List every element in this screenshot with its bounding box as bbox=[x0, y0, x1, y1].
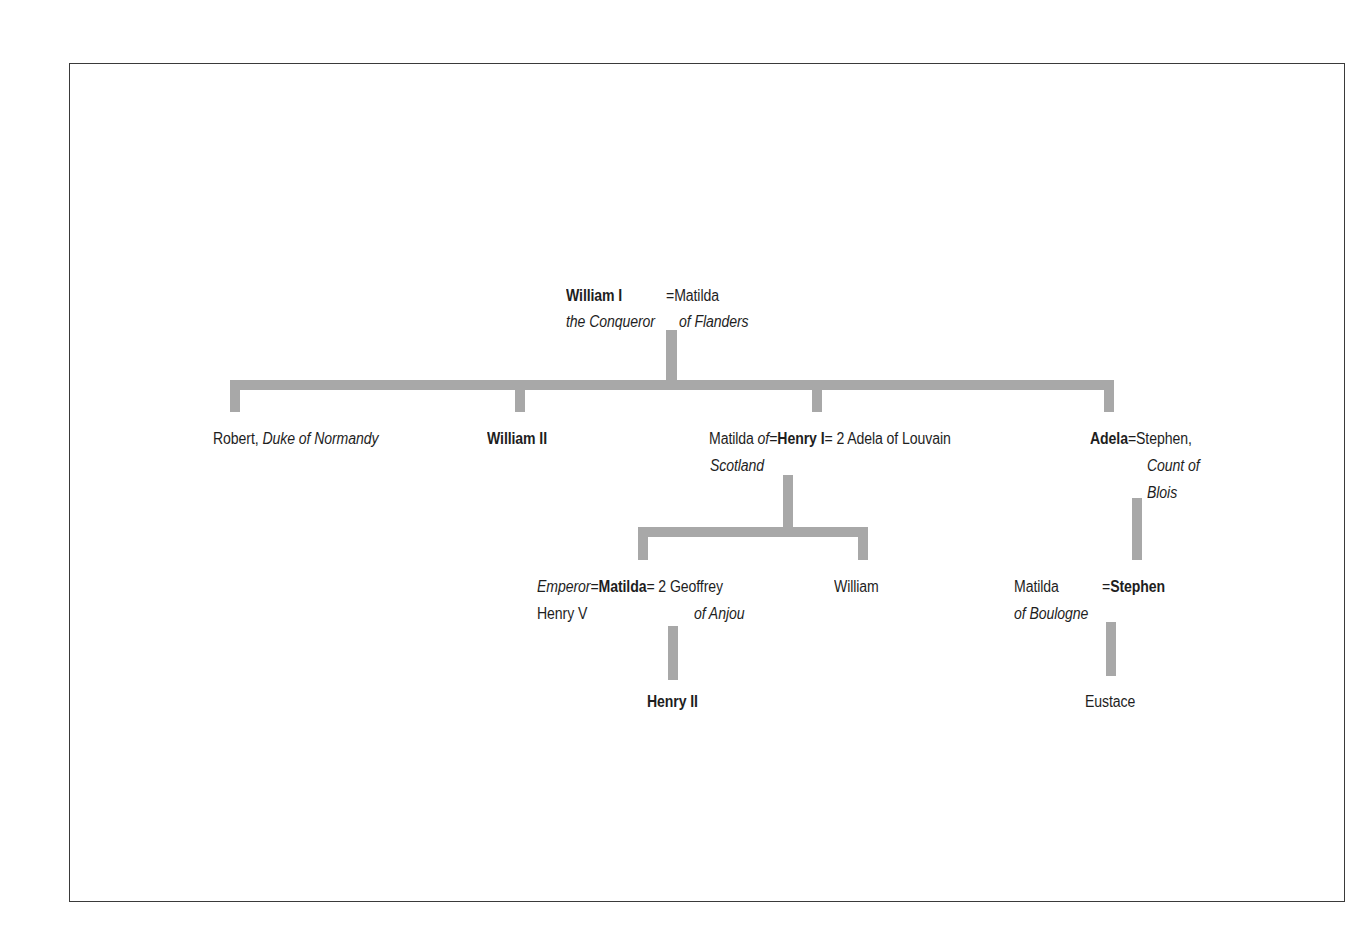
matilda-flanders-epithet: of Flanders bbox=[679, 308, 748, 335]
stephen-node: =Stephen bbox=[1102, 573, 1165, 600]
william-node: William bbox=[834, 573, 879, 600]
geoffrey-name: Geoffrey bbox=[670, 578, 723, 595]
matilda-flanders-name: Matilda bbox=[674, 287, 719, 304]
stephen-blois-title-1: Count of bbox=[1147, 452, 1200, 479]
matilda-drop-line bbox=[638, 527, 648, 560]
matilda-boulogne-name: Matilda bbox=[1014, 573, 1059, 600]
adela-descent-line bbox=[1132, 498, 1142, 560]
marriage-sign: = bbox=[666, 287, 674, 304]
william-i-node: William I bbox=[566, 282, 622, 309]
william-ii-drop-line bbox=[515, 380, 525, 412]
second-marriage-sign: = 2 bbox=[824, 430, 844, 447]
william-i-epithet: the Conqueror bbox=[566, 308, 655, 335]
henry-i-name: Henry I bbox=[777, 430, 824, 447]
adela-name: Adela bbox=[1090, 430, 1128, 447]
adela-drop-line bbox=[1104, 380, 1114, 412]
matilda-descent-line bbox=[668, 626, 678, 680]
adela-louvain-name: Adela of Louvain bbox=[847, 430, 950, 447]
william-i-name: William I bbox=[566, 287, 622, 304]
stephen-blois-name: Stephen, bbox=[1136, 430, 1192, 447]
marriage-sign: = bbox=[769, 430, 777, 447]
marriage-sign: = bbox=[1102, 578, 1110, 595]
emperor-label: Emperor bbox=[537, 578, 590, 595]
henry-i-node: Matilda of=Henry I= 2 Adela of Louvain bbox=[709, 425, 951, 452]
second-marriage-sign: = 2 bbox=[646, 578, 666, 595]
empress-matilda-node: Emperor=Matilda= 2 Geoffrey bbox=[537, 573, 723, 600]
matilda-scotland-of: of bbox=[758, 430, 770, 447]
robert-name: Robert, bbox=[213, 430, 259, 447]
matilda-name: Matilda bbox=[599, 578, 647, 595]
matilda-flanders-node: =Matilda bbox=[666, 282, 719, 309]
stephen-blois-title-2: Blois bbox=[1147, 479, 1177, 506]
marriage-sign: = bbox=[590, 578, 598, 595]
henry-i-descent-line bbox=[783, 475, 793, 532]
matilda-scotland-name: Matilda bbox=[709, 430, 754, 447]
root-descent-line bbox=[666, 330, 677, 385]
matilda-boulogne-place: of Boulogne bbox=[1014, 600, 1088, 627]
henry-v-name: Henry V bbox=[537, 600, 587, 627]
gen2-sibling-line bbox=[230, 380, 1114, 390]
adela-node: Adela=Stephen, bbox=[1090, 425, 1192, 452]
william-ii-node: William II bbox=[487, 425, 547, 452]
eustace-node: Eustace bbox=[1085, 688, 1135, 715]
robert-drop-line bbox=[230, 380, 240, 412]
henry-i-drop-line bbox=[812, 380, 822, 412]
stephen-name: Stephen bbox=[1110, 578, 1165, 595]
william-drop-line bbox=[858, 527, 868, 560]
robert-node: Robert, Duke of Normandy bbox=[213, 425, 378, 452]
matilda-scotland-place: Scotland bbox=[710, 452, 764, 479]
geoffrey-place: of Anjou bbox=[694, 600, 744, 627]
gen3-sibling-line bbox=[638, 527, 868, 537]
henry-ii-node: Henry II bbox=[647, 688, 698, 715]
robert-title: Duke of Normandy bbox=[262, 430, 378, 447]
stephen-descent-line bbox=[1106, 622, 1116, 676]
